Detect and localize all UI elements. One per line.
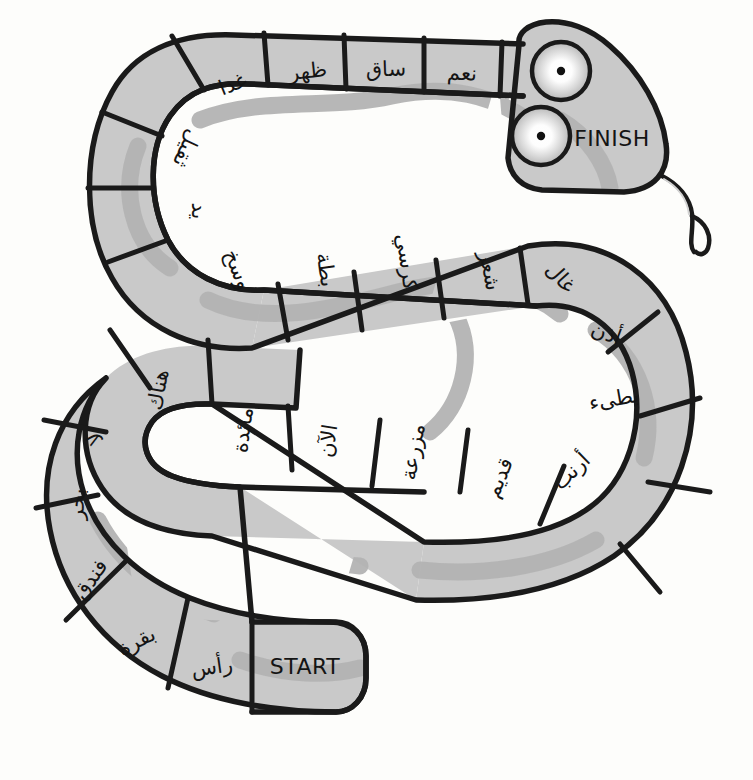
space-label-13: بطىء [587, 383, 641, 415]
space-label-24: ساق [365, 56, 406, 81]
space-label-10: مزرعة [396, 422, 429, 482]
space-label-11: قديم [480, 454, 519, 501]
space-label-25: نعم [446, 60, 477, 87]
space-label-finish: FINISH [574, 126, 650, 151]
space-label-21: ثقيل [168, 126, 206, 171]
space-label-9: الآن [314, 423, 343, 460]
eye-upper [532, 42, 590, 100]
snake-tongue [662, 176, 709, 254]
space-label-5: بحر [64, 488, 90, 522]
space-label-20: يد [187, 203, 211, 220]
space-label-18: بطة [312, 251, 341, 288]
space-label-23: ظهر [287, 57, 328, 85]
snake-board-graphic: START رأس بقرة فندق بحر لا هناك مائدة ال… [0, 0, 753, 780]
space-label-8: مائدة [228, 406, 258, 454]
eye-lower [512, 107, 570, 165]
board-container: START رأس بقرة فندق بحر لا هناك مائدة ال… [0, 0, 753, 780]
space-label-start: START [270, 654, 340, 679]
